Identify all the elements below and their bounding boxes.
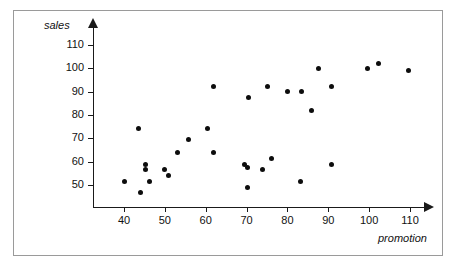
data-point <box>175 150 180 155</box>
data-point <box>138 190 143 195</box>
data-point <box>365 66 370 71</box>
scatter-plot-figure: sales promotion 5060708090100110 4050607… <box>0 0 456 280</box>
data-point <box>143 167 148 172</box>
y-tick-label: 70 <box>54 131 84 143</box>
data-point <box>269 156 274 161</box>
y-tick-mark <box>88 138 93 139</box>
y-tick-mark <box>88 45 93 46</box>
x-tick-label: 90 <box>313 214 343 226</box>
x-tick-mark <box>247 207 248 212</box>
y-tick-mark <box>88 92 93 93</box>
data-point <box>162 167 167 172</box>
y-tick-mark <box>88 162 93 163</box>
x-tick-mark <box>165 207 166 212</box>
data-point <box>136 126 141 131</box>
x-tick-label: 60 <box>191 214 221 226</box>
x-tick-label: 110 <box>395 214 425 226</box>
x-tick-mark <box>328 207 329 212</box>
data-point <box>406 68 411 73</box>
x-tick-mark <box>287 207 288 212</box>
x-axis-line <box>93 207 426 208</box>
y-tick-label: 80 <box>54 108 84 120</box>
y-axis-title: sales <box>44 19 70 31</box>
y-tick-mark <box>88 115 93 116</box>
x-tick-label: 50 <box>150 214 180 226</box>
data-point <box>329 84 334 89</box>
data-point <box>265 84 270 89</box>
data-point <box>329 162 334 167</box>
plot-area: sales promotion 5060708090100110 4050607… <box>0 0 456 280</box>
data-point <box>260 167 265 172</box>
data-point <box>211 84 216 89</box>
data-point <box>246 95 251 100</box>
data-point <box>147 179 152 184</box>
data-point <box>309 108 314 113</box>
y-tick-label: 90 <box>54 85 84 97</box>
data-point <box>316 66 321 71</box>
x-tick-label: 100 <box>354 214 384 226</box>
data-point <box>298 179 303 184</box>
data-point <box>166 173 171 178</box>
data-point <box>245 165 250 170</box>
y-axis-arrow-icon <box>88 18 98 28</box>
x-tick-label: 70 <box>232 214 262 226</box>
x-tick-label: 40 <box>109 214 139 226</box>
x-tick-mark <box>369 207 370 212</box>
y-tick-mark <box>88 68 93 69</box>
y-tick-label: 110 <box>54 38 84 50</box>
x-tick-mark <box>410 207 411 212</box>
data-point <box>205 126 210 131</box>
data-point <box>143 162 148 167</box>
x-axis-title: promotion <box>378 232 427 244</box>
x-tick-mark <box>124 207 125 212</box>
data-point <box>211 150 216 155</box>
data-point <box>186 137 191 142</box>
data-point <box>376 61 381 66</box>
data-point <box>299 89 304 94</box>
y-axis-line <box>93 26 94 207</box>
data-point <box>122 179 127 184</box>
data-point <box>245 185 250 190</box>
x-axis-arrow-icon <box>424 202 434 212</box>
x-tick-mark <box>206 207 207 212</box>
y-tick-label: 50 <box>54 178 84 190</box>
x-tick-label: 80 <box>272 214 302 226</box>
y-tick-label: 100 <box>54 61 84 73</box>
data-point <box>285 89 290 94</box>
y-tick-mark <box>88 185 93 186</box>
y-tick-label: 60 <box>54 155 84 167</box>
